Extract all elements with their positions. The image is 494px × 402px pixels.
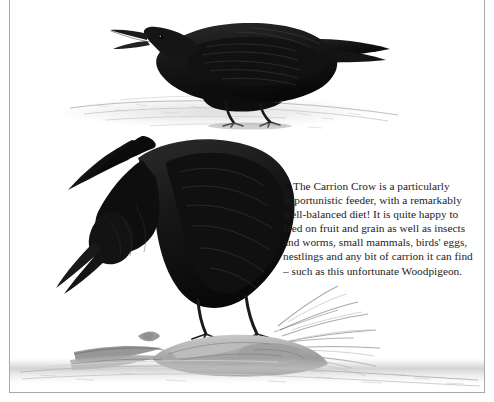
caption-text: The Carrion Crow is a particularly oppor… (283, 180, 473, 277)
lower-ground-texture (10, 358, 484, 386)
frame-rule-right (484, 0, 485, 393)
left-pointing-triangle-icon: ◀ (283, 181, 290, 191)
caption-block: ◀The Carrion Crow is a particularly oppo… (283, 179, 479, 278)
frame-rule-bottom (9, 392, 485, 393)
illustration-page: ◀The Carrion Crow is a particularly oppo… (0, 0, 494, 402)
